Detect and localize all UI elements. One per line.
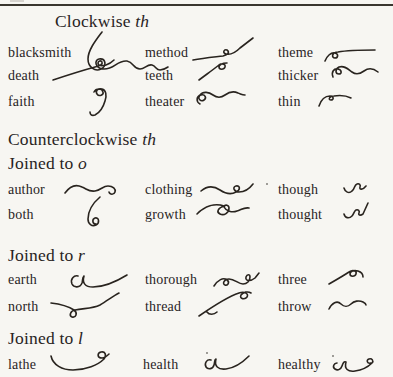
heading-italic-term: o (78, 153, 87, 173)
health-shorthand-outline (201, 351, 253, 375)
word-label-both: both (8, 207, 34, 222)
section-heading-clockwise-th: Clockwise th (55, 11, 149, 31)
word-label-lathe: lathe (8, 357, 36, 372)
word-label-thread: thread (145, 299, 181, 314)
heading-text: Joined to (8, 328, 78, 348)
heading-text: Clockwise (55, 11, 135, 31)
word-label-teeth: teeth (145, 68, 173, 83)
teeth-shorthand-outline (197, 61, 229, 82)
top-rule (0, 4, 393, 6)
section-heading-joined-to-r: Joined to r (8, 245, 85, 265)
heading-text: Joined to (8, 153, 78, 173)
thin-shorthand-outline (317, 92, 353, 108)
faith-shorthand-outline (86, 87, 108, 116)
word-label-three: three (278, 272, 307, 287)
throw-shorthand-outline (327, 297, 367, 314)
word-label-growth: growth (145, 207, 186, 222)
though-shorthand-outline (341, 179, 369, 196)
thicker-shorthand-outline (329, 64, 381, 82)
word-label-method: method (145, 45, 188, 60)
earth-shorthand-outline (69, 271, 129, 292)
theater-shorthand-outline (193, 87, 245, 110)
section-heading-joined-to-l: Joined to l (8, 328, 83, 348)
lathe-shorthand-outline (49, 351, 115, 377)
word-label-throw: throw (278, 299, 312, 314)
heading-italic-term: th (142, 129, 156, 149)
word-label-thin: thin (278, 94, 301, 109)
both-shorthand-outline (84, 195, 106, 228)
heading-italic-term: r (78, 245, 85, 265)
clothing-shorthand-outline (199, 181, 271, 200)
word-label-thought: thought (278, 207, 322, 222)
heading-italic-term: l (78, 328, 83, 348)
word-label-healthy: healthy (278, 357, 321, 372)
section-heading-joined-to-o: Joined to o (8, 153, 87, 173)
section-heading-counterclockwise-th: Counterclockwise th (8, 129, 156, 149)
word-label-thorough: thorough (145, 272, 197, 287)
word-label-death: death (8, 68, 39, 83)
healthy-shorthand-outline (329, 351, 381, 377)
death-shorthand-outline (51, 59, 117, 82)
cropped-page-number-remnant (10, 0, 24, 2)
word-label-thicker: thicker (278, 68, 318, 83)
word-label-clothing: clothing (145, 182, 192, 197)
method-shorthand-outline (191, 36, 255, 64)
shorthand-textbook-page: Clockwise thblacksmithmethodthemedeathte… (0, 0, 393, 377)
growth-shorthand-outline (195, 201, 251, 222)
three-shorthand-outline (327, 267, 365, 288)
word-label-theme: theme (278, 45, 313, 60)
word-label-earth: earth (8, 272, 37, 287)
heading-italic-term: th (135, 11, 149, 31)
heading-text: Counterclockwise (8, 129, 142, 149)
heading-text: Joined to (8, 245, 78, 265)
north-shorthand-outline (49, 291, 121, 318)
thread-shorthand-outline (197, 287, 257, 318)
word-label-author: author (8, 182, 45, 197)
word-label-health: health (143, 357, 178, 372)
word-label-theater: theater (145, 94, 184, 109)
theme-shorthand-outline (322, 47, 378, 64)
word-label-north: north (8, 299, 39, 314)
word-label-though: though (278, 182, 318, 197)
thought-shorthand-outline (341, 199, 371, 220)
word-label-faith: faith (8, 94, 35, 109)
